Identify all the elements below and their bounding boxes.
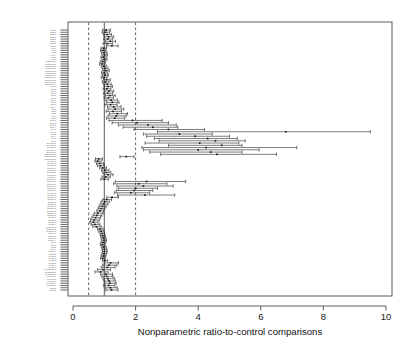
ci-point-estimate xyxy=(106,34,108,36)
ci-point-estimate xyxy=(94,224,96,226)
ci-point-estimate xyxy=(199,142,201,144)
ci-point-estimate xyxy=(210,151,212,153)
ci-point-estimate xyxy=(107,43,109,45)
ci-point-estimate xyxy=(216,154,218,156)
plot-frame-box xyxy=(68,22,392,296)
ci-point-estimate xyxy=(97,212,99,214)
confidence-interval-row xyxy=(104,279,115,282)
ci-point-estimate xyxy=(101,233,103,235)
confidence-interval-row xyxy=(118,187,157,190)
ci-point-estimate xyxy=(103,56,105,58)
ci-point-estimate xyxy=(103,253,105,255)
ci-point-estimate xyxy=(95,217,97,219)
ci-point-estimate xyxy=(108,285,110,287)
confidence-interval-row xyxy=(158,130,371,133)
ci-point-estimate xyxy=(136,122,138,124)
ci-point-estimate xyxy=(146,181,148,183)
confidence-interval-row xyxy=(107,105,121,108)
confidence-interval-row xyxy=(106,40,116,43)
ci-point-estimate xyxy=(100,230,102,232)
confidence-interval-row xyxy=(147,135,230,138)
ci-point-estimate xyxy=(114,108,116,110)
confidence-interval-row xyxy=(102,275,113,278)
ci-point-estimate xyxy=(103,248,105,250)
ci-point-estimate xyxy=(108,90,110,92)
ci-point-estimate xyxy=(107,92,109,94)
ci-point-estimate xyxy=(103,239,105,241)
x-axis-tick-label: 8 xyxy=(321,311,326,322)
ci-point-estimate xyxy=(102,269,104,271)
ci-point-estimate xyxy=(108,36,110,38)
ci-point-estimate xyxy=(105,31,107,33)
ci-point-estimate xyxy=(111,45,113,47)
confidence-interval-row xyxy=(120,155,134,158)
confidence-interval-row xyxy=(123,126,178,129)
ci-point-estimate xyxy=(130,192,132,194)
ci-point-estimate xyxy=(147,124,149,126)
ci-point-estimate xyxy=(179,133,181,135)
ci-point-estimate xyxy=(99,210,101,212)
ci-point-estimate xyxy=(107,38,109,40)
confidence-interval-row xyxy=(104,261,118,264)
confidence-interval-row xyxy=(106,288,118,291)
confidence-interval-row xyxy=(108,114,126,117)
x-axis-tick-label: 10 xyxy=(381,311,392,322)
ci-point-estimate xyxy=(138,183,140,185)
confidence-interval-row xyxy=(117,193,174,196)
ci-point-estimate xyxy=(96,226,98,228)
forest-plot-figure: SUB.1SUB.2SUB.3SUB.4SUB.5SUB.6SUB.7SUB.8… xyxy=(0,0,407,358)
ci-point-estimate xyxy=(99,163,101,165)
y-axis-tick-marks xyxy=(61,30,68,290)
confidence-interval-row xyxy=(101,266,115,269)
ci-point-estimate xyxy=(285,131,287,133)
ci-point-estimate xyxy=(103,47,105,49)
ci-point-estimate xyxy=(105,70,107,72)
ci-point-estimate xyxy=(109,40,111,42)
confidence-interval-row xyxy=(116,189,153,192)
confidence-interval-row xyxy=(104,83,112,86)
ci-point-estimate xyxy=(111,289,113,291)
ci-point-estimate xyxy=(103,178,105,180)
ci-point-estimate xyxy=(102,167,104,169)
ci-point-estimate xyxy=(106,79,108,81)
confidence-interval-row xyxy=(142,146,297,149)
ci-point-estimate xyxy=(102,235,104,237)
confidence-interval-row xyxy=(95,270,108,273)
ci-point-estimate xyxy=(96,215,98,217)
ci-point-estimate xyxy=(100,165,102,167)
ci-point-estimate xyxy=(101,63,103,65)
confidence-interval-row xyxy=(102,175,110,178)
confidence-interval-row xyxy=(112,121,168,124)
confidence-interval-row xyxy=(114,191,149,194)
confidence-interval-row xyxy=(101,272,113,275)
y-axis-label-column: SUB.1SUB.2SUB.3SUB.4SUB.5SUB.6SUB.7SUB.8… xyxy=(45,29,57,291)
confidence-interval-row xyxy=(105,282,116,285)
confidence-interval-row xyxy=(114,182,167,185)
confidence-interval-row xyxy=(168,144,242,147)
ci-point-estimate xyxy=(117,113,119,115)
ci-point-estimate xyxy=(107,278,109,280)
x-axis-tick-label: 0 xyxy=(70,311,75,322)
confidence-interval-row xyxy=(117,184,173,187)
ci-point-estimate xyxy=(110,99,112,101)
ci-point-estimate xyxy=(207,138,209,140)
confidence-interval-row xyxy=(100,166,107,169)
ci-point-estimate xyxy=(197,149,199,151)
ci-point-estimate xyxy=(106,199,108,201)
ci-point-estimate xyxy=(93,219,95,221)
ci-point-estimate xyxy=(105,273,107,275)
ci-point-estimate xyxy=(107,86,109,88)
x-axis-tick-label: 2 xyxy=(133,311,138,322)
confidence-interval-row xyxy=(101,200,109,203)
ci-point-estimate xyxy=(103,59,105,61)
confidence-interval-row xyxy=(154,137,237,140)
ci-point-estimate xyxy=(112,111,114,113)
ci-point-estimate xyxy=(102,50,104,52)
ci-point-estimate xyxy=(110,287,112,289)
ci-point-estimate xyxy=(103,246,105,248)
ci-point-estimate xyxy=(221,144,223,146)
ci-point-estimate xyxy=(102,206,104,208)
confidence-interval-row xyxy=(161,153,277,156)
ci-point-estimate xyxy=(104,68,106,70)
confidence-interval-row xyxy=(150,150,242,153)
